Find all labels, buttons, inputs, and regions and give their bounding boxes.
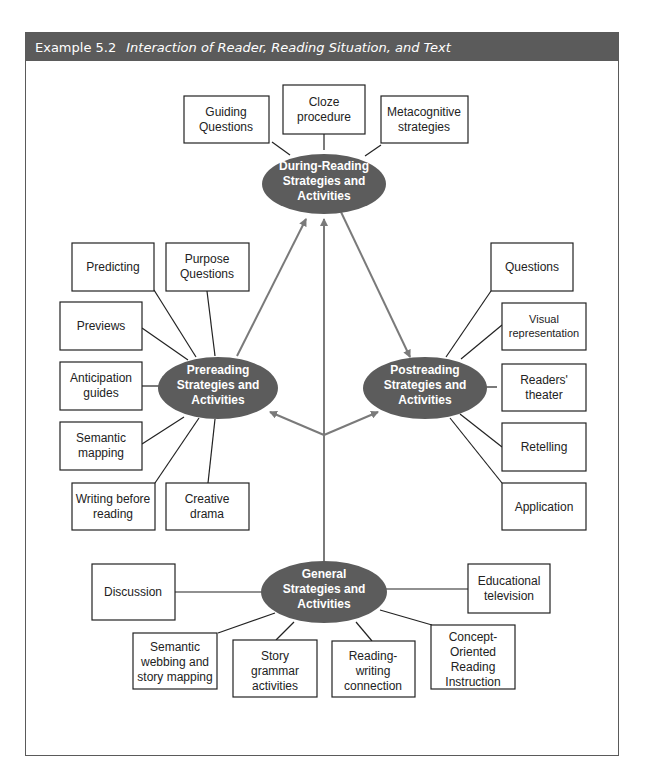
svg-text:Instruction: Instruction bbox=[445, 675, 500, 689]
svg-text:Activities: Activities bbox=[191, 393, 245, 407]
box-purpose-questions: Purpose Questions bbox=[166, 243, 249, 291]
box-metacognitive-strategies: Metacognitive strategies bbox=[381, 96, 468, 143]
svg-text:Previews: Previews bbox=[77, 319, 126, 333]
svg-text:Story: Story bbox=[261, 649, 289, 663]
svg-text:Strategies and: Strategies and bbox=[283, 174, 366, 188]
box-questions: Questions bbox=[491, 243, 573, 291]
svg-text:During-Reading: During-Reading bbox=[279, 159, 369, 173]
box-readers-theater: Readers' theater bbox=[502, 364, 586, 411]
box-discussion: Discussion bbox=[92, 564, 175, 620]
hub-postreading: Postreading Strategies and Activities bbox=[363, 357, 487, 419]
svg-text:writing: writing bbox=[355, 664, 391, 678]
svg-text:reading: reading bbox=[93, 507, 133, 521]
svg-text:Activities: Activities bbox=[297, 189, 351, 203]
svg-text:Guiding: Guiding bbox=[205, 105, 246, 119]
svg-text:Metacognitive: Metacognitive bbox=[387, 105, 461, 119]
box-writing-before-reading: Writing before reading bbox=[72, 483, 155, 530]
svg-text:theater: theater bbox=[525, 388, 562, 402]
svg-text:Readers': Readers' bbox=[520, 373, 568, 387]
box-creative-drama: Creative drama bbox=[166, 483, 249, 530]
box-cloze-procedure: Cloze procedure bbox=[283, 85, 365, 134]
hub-general: General Strategies and Activities bbox=[261, 561, 387, 623]
svg-text:Purpose: Purpose bbox=[185, 252, 230, 266]
svg-text:guides: guides bbox=[83, 386, 118, 400]
svg-text:mapping: mapping bbox=[78, 446, 124, 460]
box-predicting: Predicting bbox=[72, 243, 154, 291]
svg-text:Semantic: Semantic bbox=[150, 640, 200, 654]
svg-text:General: General bbox=[302, 567, 347, 581]
box-semantic-webbing: Semantic webbing and story mapping bbox=[133, 633, 217, 689]
svg-text:activities: activities bbox=[252, 679, 298, 693]
box-educational-television: Educational television bbox=[468, 564, 550, 613]
svg-text:grammar: grammar bbox=[251, 664, 299, 678]
box-concept-oriented-reading-instruction: Concept- Oriented Reading Instruction bbox=[431, 625, 515, 689]
svg-text:representation: representation bbox=[509, 327, 579, 339]
svg-text:Visual: Visual bbox=[529, 313, 559, 325]
svg-text:Questions: Questions bbox=[505, 260, 559, 274]
hub-during-reading: During-Reading Strategies and Activities bbox=[262, 154, 386, 214]
svg-text:Questions: Questions bbox=[180, 267, 234, 281]
during-connectors bbox=[272, 134, 381, 156]
svg-text:Oriented: Oriented bbox=[450, 645, 496, 659]
svg-text:strategies: strategies bbox=[398, 120, 450, 134]
svg-text:drama: drama bbox=[190, 507, 224, 521]
svg-text:Strategies and: Strategies and bbox=[283, 582, 366, 596]
svg-text:connection: connection bbox=[344, 679, 402, 693]
svg-text:Prereading: Prereading bbox=[187, 363, 250, 377]
box-anticipation-guides: Anticipation guides bbox=[60, 362, 142, 410]
box-retelling: Retelling bbox=[502, 423, 586, 471]
box-reading-writing-connection: Reading- writing connection bbox=[332, 641, 415, 697]
svg-text:Reading-: Reading- bbox=[349, 649, 398, 663]
svg-text:Postreading: Postreading bbox=[390, 363, 459, 377]
svg-text:Discussion: Discussion bbox=[104, 585, 162, 599]
svg-text:Cloze: Cloze bbox=[309, 95, 340, 109]
svg-text:Retelling: Retelling bbox=[521, 440, 568, 454]
box-previews: Previews bbox=[60, 302, 142, 350]
box-semantic-mapping: Semantic mapping bbox=[60, 422, 142, 470]
svg-text:Semantic: Semantic bbox=[76, 431, 126, 445]
svg-text:story mapping: story mapping bbox=[137, 670, 212, 684]
svg-text:Concept-: Concept- bbox=[449, 630, 498, 644]
svg-text:Questions: Questions bbox=[199, 120, 253, 134]
svg-text:Writing before: Writing before bbox=[76, 492, 151, 506]
svg-text:Educational: Educational bbox=[478, 574, 541, 588]
svg-text:Anticipation: Anticipation bbox=[70, 371, 132, 385]
box-visual-representation: Visual representation bbox=[502, 303, 586, 350]
svg-text:Activities: Activities bbox=[398, 393, 452, 407]
svg-text:Creative: Creative bbox=[185, 492, 230, 506]
svg-text:procedure: procedure bbox=[297, 110, 351, 124]
svg-text:television: television bbox=[484, 589, 534, 603]
svg-text:webbing and: webbing and bbox=[140, 655, 209, 669]
concept-map: During-Reading Strategies and Activities… bbox=[0, 0, 646, 763]
box-application: Application bbox=[502, 483, 586, 530]
svg-text:Strategies and: Strategies and bbox=[384, 378, 467, 392]
svg-text:Reading: Reading bbox=[451, 660, 496, 674]
box-story-grammar: Story grammar activities bbox=[233, 640, 317, 697]
box-guiding-questions: Guiding Questions bbox=[184, 96, 269, 143]
svg-text:Predicting: Predicting bbox=[86, 260, 139, 274]
svg-text:Activities: Activities bbox=[297, 597, 351, 611]
svg-text:Strategies and: Strategies and bbox=[177, 378, 260, 392]
hub-prereading: Prereading Strategies and Activities bbox=[158, 357, 278, 419]
svg-text:Application: Application bbox=[515, 500, 574, 514]
